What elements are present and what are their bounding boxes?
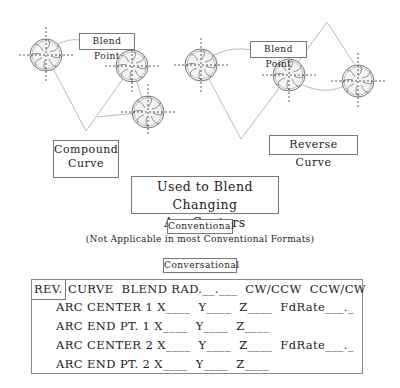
conversational-label: Conversational	[163, 258, 237, 273]
cutter-compound-1	[19, 27, 73, 83]
rev-cell: REV.	[32, 280, 66, 300]
table-row: ARC CENTER 2 X____ Y____ Z____ FdRate___…	[56, 338, 354, 352]
compound-curve-line-2: Curve	[54, 157, 118, 171]
table-row: ARC CENTER 1 X____ Y____ Z____ FdRate___…	[56, 300, 354, 314]
cutter-compound-3	[121, 84, 175, 136]
conventional-label: Conventional	[167, 219, 233, 234]
compound-curve-label: Compound Curve	[53, 140, 119, 178]
blend-point-label-right: Blend Point	[250, 41, 307, 58]
table-row: ARC END PT. 2 X____ Y____ Z____	[56, 357, 269, 371]
reverse-curve-label: Reverse Curve	[269, 135, 358, 155]
cutter-reverse-1	[174, 38, 228, 92]
compound-curve-line-1: Compound	[54, 143, 118, 157]
header-row: CURVE BLEND RAD.__.___ CW/CCW CCW/CW	[68, 280, 366, 299]
conventional-note: (Not Applicable in most Conventional For…	[60, 234, 340, 244]
conversational-format-table: REV. CURVE BLEND RAD.__.___ CW/CCW CCW/C…	[31, 279, 363, 374]
used-to-blend-line-1: Used to Blend Changing	[132, 178, 278, 214]
table-row: ARC END PT. 1 X____ Y____ Z____	[56, 319, 269, 333]
blend-point-label-left: Blend Point	[79, 33, 135, 50]
cutter-reverse-3	[331, 53, 386, 107]
used-to-blend-label: Used to Blend Changing Arc Centers	[131, 176, 279, 214]
